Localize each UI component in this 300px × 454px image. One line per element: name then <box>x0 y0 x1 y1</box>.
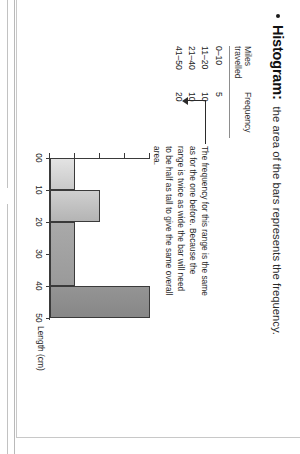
x-axis-title: Length (cm) <box>36 326 46 371</box>
x-axis-tick-label: 10 <box>34 185 44 194</box>
scanned-page: Histogram: the area of the bars represen… <box>0 0 300 454</box>
x-axis-tick-label: 50 <box>34 313 44 322</box>
histogram-bar <box>50 190 100 222</box>
x-axis-tick <box>46 158 50 159</box>
cell-range: 21–40 <box>185 46 198 92</box>
x-axis-tick-label: 30 <box>34 249 44 258</box>
x-axis-tick <box>46 318 50 319</box>
table-header-rule <box>229 46 230 138</box>
cell-frequency: 5 <box>211 92 224 140</box>
frequency-table: Miles travelled Frequency 0–10 5 11–20 1… <box>172 46 253 140</box>
annotation-text: The frequency for this range is the same… <box>150 146 210 296</box>
cell-range: 41–50 <box>172 46 185 92</box>
x-axis-tick <box>46 286 50 287</box>
table-header-row: Miles travelled Frequency <box>233 46 252 140</box>
table-header-miles: Miles travelled <box>233 46 252 92</box>
heading-term: Histogram: <box>270 25 286 100</box>
table-row: 0–10 5 <box>211 46 224 140</box>
x-axis-tick <box>46 254 50 255</box>
x-axis-tick <box>46 222 50 223</box>
x-axis-tick-label: 00 <box>34 153 44 162</box>
histogram-bar <box>50 158 75 190</box>
table-row: 21–40 10 <box>185 46 198 140</box>
cell-range: 0–10 <box>211 46 224 92</box>
content-panel: Histogram: the area of the bars represen… <box>16 0 300 438</box>
cell-range: 11–20 <box>198 46 211 92</box>
screenshot-frame: Histogram: the area of the bars represen… <box>0 0 300 454</box>
x-axis-tick-label: 20 <box>34 217 44 226</box>
page-title: Histogram: the area of the bars represen… <box>270 14 286 335</box>
annotation-arrow-icon <box>182 97 188 105</box>
x-axis-tick-label: 40 <box>34 281 44 290</box>
histogram-bar <box>50 286 150 318</box>
x-axis-line <box>49 158 50 320</box>
plot-area <box>50 158 150 318</box>
histogram-chart: 00 10 20 30 40 50 Length (cm) <box>28 130 150 330</box>
table-row: 41–50 20 <box>172 46 185 140</box>
histogram-bar <box>50 222 75 286</box>
bullet-icon <box>276 14 280 18</box>
heading-description: the area of the bars represents the freq… <box>271 107 283 335</box>
table-header-miles-line2: travelled <box>233 46 243 92</box>
page-edge-strip-right <box>0 204 8 454</box>
table-header-miles-line1: Miles <box>242 46 252 92</box>
annotation-leader-line <box>205 100 206 144</box>
page-edge-divider <box>14 0 15 454</box>
x-axis-tick <box>46 190 50 191</box>
rotated-page-wrapper: Histogram: the area of the bars represen… <box>0 0 300 454</box>
page-edge-strip-left <box>0 0 8 188</box>
table-header-frequency: Frequency <box>233 92 252 140</box>
